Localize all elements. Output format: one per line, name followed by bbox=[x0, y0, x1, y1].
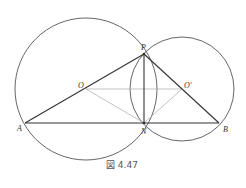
label-o: O bbox=[78, 81, 84, 90]
label-o-prime: O' bbox=[184, 81, 192, 90]
geometry-diagram: O O' P N A B 図 4.47 bbox=[0, 0, 246, 188]
label-b: B bbox=[223, 125, 228, 134]
segment-on bbox=[86, 89, 144, 123]
point-p bbox=[143, 53, 146, 56]
figure-caption: 図 4.47 bbox=[106, 160, 138, 170]
label-n: N bbox=[140, 127, 147, 136]
label-p: P bbox=[140, 43, 146, 52]
segment-o2n bbox=[144, 89, 182, 123]
point-n bbox=[143, 122, 146, 125]
label-a: A bbox=[16, 124, 22, 133]
